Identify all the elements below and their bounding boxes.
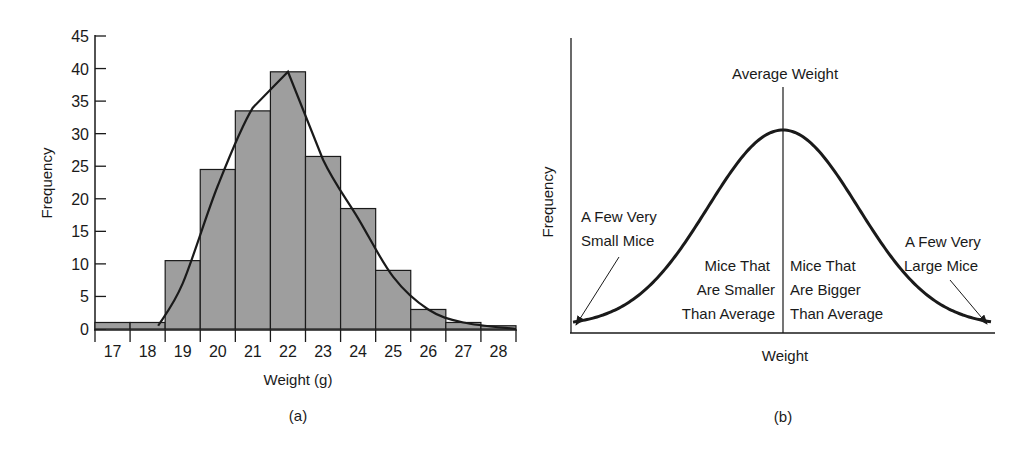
histogram-bar: [200, 169, 235, 329]
arrow-icon: [576, 257, 619, 325]
x-tick-label: 25: [384, 343, 402, 360]
annotation-line: Are Smaller: [697, 281, 775, 298]
x-tick-label: 24: [349, 343, 367, 360]
histogram-panel-a: 051015202530354045 171819202122232425262…: [38, 28, 517, 424]
small-tail-annotation: A Few Very Small Mice: [576, 208, 657, 325]
y-tick-label: 45: [71, 28, 89, 45]
large-tail-annotation: A Few Very Large Mice: [904, 233, 987, 324]
average-weight-label: Average Weight: [732, 65, 839, 82]
annotation-line: Mice That: [704, 257, 770, 274]
annotation-line: Than Average: [790, 305, 883, 322]
x-tick-label: 20: [209, 343, 227, 360]
y-tick-label: 30: [71, 126, 89, 143]
histogram-bar: [270, 72, 305, 329]
annotation-line: A Few Very: [581, 208, 657, 225]
y-tick-label: 0: [80, 321, 89, 338]
y-tick-label: 10: [71, 256, 89, 273]
x-tick-label: 21: [244, 343, 262, 360]
x-tick-label: 18: [139, 343, 157, 360]
histogram-bar: [411, 309, 446, 329]
annotation-line: Are Bigger: [790, 281, 861, 298]
bell-curve-panel-b: Frequency Weight (b) Average Weight A Fe…: [539, 38, 995, 425]
histogram-bar: [376, 270, 411, 329]
x-tick-label: 28: [490, 343, 508, 360]
x-axis-label: Weight: [762, 347, 809, 364]
y-tick-label: 15: [71, 223, 89, 240]
histogram-bar: [235, 111, 270, 329]
histogram-bar: [341, 209, 376, 329]
y-axis-label: Frequency: [539, 166, 556, 237]
x-tick-label: 23: [314, 343, 332, 360]
y-tick-label: 20: [71, 191, 89, 208]
y-tick-label: 5: [80, 288, 89, 305]
y-axis-label: Frequency: [38, 147, 55, 218]
annotation-line: Than Average: [682, 305, 775, 322]
annotation-line: Small Mice: [581, 232, 654, 249]
bigger-than-average-annotation: Mice That Are Bigger Than Average: [790, 257, 883, 322]
x-tick-label: 27: [454, 343, 472, 360]
histogram-bar: [165, 261, 200, 329]
smaller-than-average-annotation: Mice That Are Smaller Than Average: [682, 257, 775, 322]
figure: 051015202530354045 171819202122232425262…: [0, 0, 1032, 456]
y-tick-label: 25: [71, 158, 89, 175]
panel-caption-a: (a): [289, 407, 307, 424]
bell-curve: [573, 130, 991, 322]
y-ticks: 051015202530354045: [71, 28, 106, 338]
panel-caption-b: (b): [774, 408, 792, 425]
annotation-line: Mice That: [790, 257, 856, 274]
x-tick-label: 17: [104, 343, 122, 360]
x-axis-label: Weight (g): [264, 371, 333, 388]
x-tick-label: 19: [174, 343, 192, 360]
annotation-line: A Few Very: [905, 233, 981, 250]
x-ticks: 171819202122232425262728: [95, 330, 516, 360]
y-tick-label: 35: [71, 93, 89, 110]
x-tick-label: 26: [419, 343, 437, 360]
y-tick-label: 40: [71, 61, 89, 78]
histogram-bar: [95, 322, 130, 329]
x-tick-label: 22: [279, 343, 297, 360]
annotation-line: Large Mice: [904, 257, 978, 274]
histogram-bars: [95, 72, 516, 329]
